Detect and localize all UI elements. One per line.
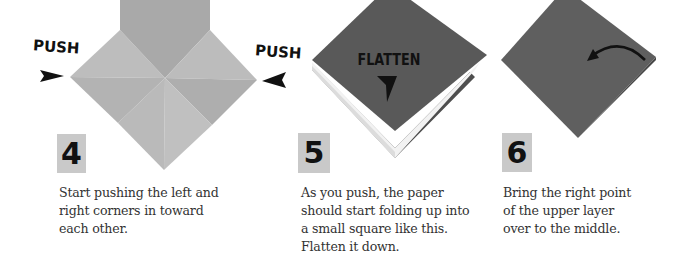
step-number-badge: 6 [502,133,532,172]
step-6-panel: 6 Bring the right point of the upper lay… [490,0,687,249]
step-5-panel: FLATTEN 5 As you push, the paper should … [290,0,490,249]
push-label-left: PUSH [32,36,80,57]
step-caption: As you push, the paper should start fold… [301,184,469,255]
step-4-panel: PUSH PUSH 4 Start pushing the left and r… [0,0,290,249]
push-arrow-left-icon [262,72,286,88]
step-caption: Start pushing the left and right corners… [59,184,219,238]
step-number-badge: 4 [57,134,86,173]
step-number: 6 [507,138,528,168]
flatten-label: FLATTEN [358,51,421,69]
step-number: 4 [61,139,82,169]
step-number-badge: 5 [298,133,330,173]
push-arrow-right-icon [40,70,64,82]
step-caption: Bring the right point of the upper layer… [503,184,631,238]
step-number: 5 [304,138,325,168]
